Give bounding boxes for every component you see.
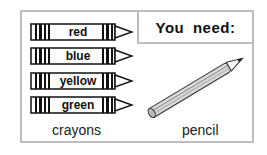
crayons-caption: crayons — [52, 122, 101, 138]
crayon-yellow: yellow — [30, 72, 134, 90]
crayon-green: green — [30, 96, 134, 114]
crayon-label: blue — [53, 48, 103, 64]
crayon-label: green — [53, 97, 103, 113]
crayon-label: red — [53, 24, 103, 40]
pencil-icon — [140, 48, 250, 123]
crayon-blue: blue — [30, 47, 134, 65]
crayon-red: red — [30, 23, 134, 41]
you-need-header: You need: — [137, 10, 254, 44]
you-need-title: You need: — [156, 19, 236, 36]
pencil-caption: pencil — [182, 122, 219, 138]
crayon-label: yellow — [53, 73, 103, 89]
